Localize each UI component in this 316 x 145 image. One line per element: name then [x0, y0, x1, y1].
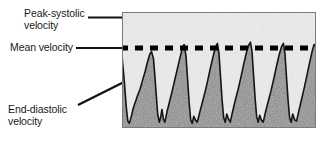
figure-root: Peak-systolic velocity Mean velocity End… [0, 0, 316, 145]
label-mean-velocity: Mean velocity [10, 42, 73, 54]
label-peak-systolic-velocity: Peak-systolic velocity [24, 8, 85, 31]
label-end-diastolic-velocity: End-diastolic velocity [8, 104, 67, 127]
doppler-spectrum-panel [122, 12, 316, 128]
doppler-spectrum-svg [122, 12, 316, 128]
